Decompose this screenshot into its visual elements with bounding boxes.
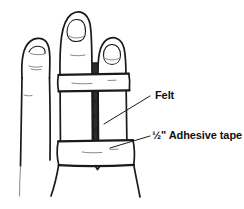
figure-container: Felt ½" Adhesive tape (0, 0, 244, 209)
felt-strip (93, 90, 99, 142)
adhesive-tape-label: ½" Adhesive tape (152, 130, 242, 141)
index-finger (21, 38, 51, 170)
ring-finger (98, 37, 127, 150)
upper-tape-band (58, 74, 130, 92)
hand-illustration (0, 0, 244, 209)
felt-label: Felt (155, 90, 174, 101)
